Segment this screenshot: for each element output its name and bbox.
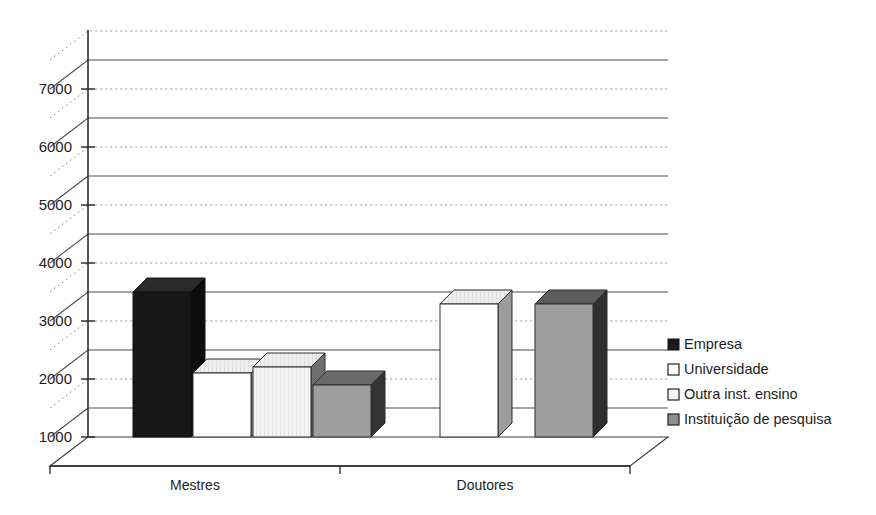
x-tick-label-doutores: Doutores <box>457 477 514 493</box>
gray-swatch-icon <box>668 414 679 425</box>
legend-label: Instituição de pesquisa <box>684 411 832 427</box>
legend-item-instituicao-pesquisa[interactable]: Instituição de pesquisa <box>668 411 832 427</box>
y-tick-label: 2000 <box>39 370 72 387</box>
y-tick-label: 5000 <box>39 196 72 213</box>
bar-doutores-outra-inst-ensino <box>440 290 512 437</box>
white-swatch-icon <box>668 364 679 375</box>
legend-label: Empresa <box>684 336 743 352</box>
y-tick-label: 4000 <box>39 254 72 271</box>
y-tick-label: 6000 <box>39 138 72 155</box>
bar-chart-3d: 7000 6000 5000 4000 3000 2000 1000 <box>0 0 876 515</box>
legend-label: Universidade <box>684 361 769 377</box>
legend-item-universidade[interactable]: Universidade <box>668 361 769 377</box>
bar-doutores-instituicao-pesquisa <box>535 290 607 437</box>
y-tick-label: 1000 <box>39 428 72 445</box>
legend-item-outra-inst-ensino[interactable]: Outra inst. ensino <box>668 386 798 402</box>
y-tick-label: 7000 <box>39 80 72 97</box>
bar-mestres-instituicao-pesquisa <box>313 371 385 437</box>
x-tick-label-mestres: Mestres <box>170 477 220 493</box>
chart-container: 7000 6000 5000 4000 3000 2000 1000 <box>0 0 876 515</box>
y-tick-label: 3000 <box>39 312 72 329</box>
black-swatch-icon <box>668 339 679 350</box>
chart-background <box>0 0 876 515</box>
light-swatch-icon <box>668 389 679 400</box>
legend-label: Outra inst. ensino <box>684 386 798 402</box>
